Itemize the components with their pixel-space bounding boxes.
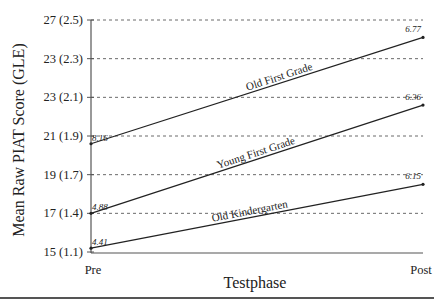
pre-value-label: 8.16 bbox=[92, 133, 108, 143]
x-tick-post: Post bbox=[410, 263, 432, 277]
series-label: Old Kindergarten bbox=[211, 197, 289, 223]
line-chart: 27 (2.5)23 (2.3)23 (2.1)21 (1.9)19 (1.7)… bbox=[0, 0, 434, 308]
data-point bbox=[421, 183, 424, 186]
y-tick-label: 23 (2.3) bbox=[43, 52, 83, 66]
data-point bbox=[421, 36, 424, 39]
series-young-first-grade: 4.886.36Young First Grade bbox=[89, 92, 424, 215]
bottom-divider bbox=[0, 297, 434, 299]
gridlines bbox=[91, 20, 423, 213]
post-value-label: 6.36 bbox=[405, 92, 421, 102]
y-tick-label: 21 (1.9) bbox=[43, 129, 83, 143]
y-tick-label: 23 (2.1) bbox=[43, 90, 83, 104]
series-line bbox=[91, 105, 423, 213]
y-axis-title: Mean Raw PIAT Score (GLE) bbox=[10, 43, 28, 236]
x-tick-pre: Pre bbox=[85, 263, 102, 277]
series-old-kindergarten: 4.416.15Old Kindergarten bbox=[89, 171, 424, 249]
x-axis-title: Testphase bbox=[224, 274, 287, 292]
y-tick-label: 17 (1.4) bbox=[43, 206, 83, 220]
data-point bbox=[421, 103, 424, 106]
post-value-label: 6.77 bbox=[405, 24, 421, 34]
pre-value-label: 4.88 bbox=[92, 202, 108, 212]
y-axis-ticks: 27 (2.5)23 (2.3)23 (2.1)21 (1.9)19 (1.7)… bbox=[43, 13, 94, 259]
y-tick-label: 27 (2.5) bbox=[43, 13, 83, 27]
post-value-label: 6.15 bbox=[405, 171, 421, 181]
y-tick-label: 19 (1.7) bbox=[43, 168, 83, 182]
series-line bbox=[91, 184, 423, 248]
pre-value-label: 4.41 bbox=[92, 237, 108, 247]
series-lines: 8.166.77Old First Grade4.886.36Young Fir… bbox=[89, 24, 424, 249]
series-label: Young First Grade bbox=[215, 134, 296, 171]
series-line bbox=[91, 37, 423, 143]
series-old-first-grade: 8.166.77Old First Grade bbox=[89, 24, 424, 145]
y-tick-label: 15 (1.1) bbox=[43, 245, 83, 259]
